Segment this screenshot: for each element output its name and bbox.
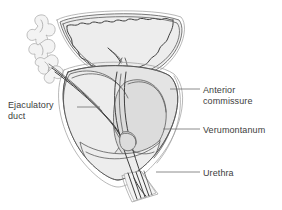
label-anterior-commissure: Anterior commissure	[203, 85, 282, 107]
striated-sphincter-group	[122, 171, 158, 202]
figure-canvas: .ln { fill:none; stroke:#555; stroke-wid…	[0, 0, 282, 210]
verumontanum-group	[120, 132, 136, 151]
seminal-vesicle-group	[27, 15, 63, 83]
prostate-group	[49, 62, 183, 187]
verumontanum	[120, 132, 136, 151]
label-urethra: Urethra	[203, 168, 281, 179]
label-verumontanum: Verumontanum	[203, 125, 282, 136]
label-ejaculatory-duct: Ejaculatory duct	[8, 100, 80, 122]
